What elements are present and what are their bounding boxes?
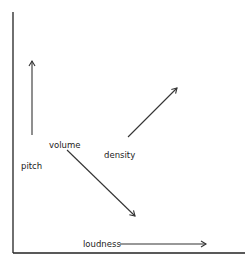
dimension-diagram: pitch volume density loudness <box>0 0 245 273</box>
volume-label: volume <box>49 140 81 150</box>
density-arrow-icon <box>128 88 177 137</box>
density-label: density <box>104 150 135 160</box>
loudness-label: loudness <box>83 239 121 249</box>
pitch-label: pitch <box>21 161 42 171</box>
